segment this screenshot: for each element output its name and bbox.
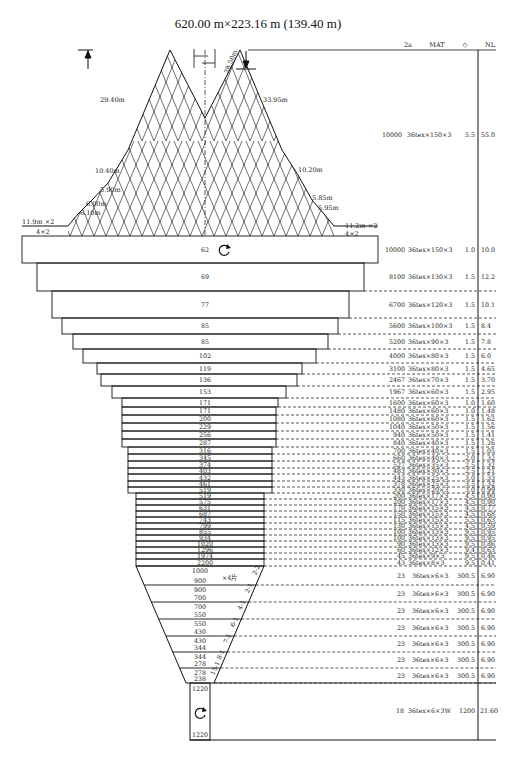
section-diamond: 1.5 bbox=[465, 431, 475, 438]
section-diamond: 1.5 bbox=[465, 365, 475, 372]
extension-nl: 6.90 bbox=[481, 672, 495, 679]
section-2a: 700 bbox=[393, 447, 405, 454]
extension-diamond: 300.5 bbox=[457, 572, 475, 579]
section-2a: 1600 bbox=[389, 399, 405, 406]
wing-label-left: 4×2 bbox=[36, 228, 50, 236]
body-section: 171148036tex×60×31.01.48 bbox=[122, 407, 496, 415]
body-section: 200108036tex×60×31.51.62 bbox=[122, 415, 496, 423]
extension-mat: 36tex×6×3 bbox=[412, 607, 448, 614]
section-mesh-count: 345 bbox=[199, 454, 211, 461]
extension-mat: 36tex×6×3 bbox=[412, 640, 448, 647]
section-2a: 10000 bbox=[385, 246, 405, 253]
section-2a: 660 bbox=[393, 454, 405, 461]
rotate-icon bbox=[195, 707, 207, 718]
section-mesh-count: 62 bbox=[201, 246, 209, 253]
section-diamond: 1.5 bbox=[465, 352, 475, 359]
section-nl: 1.62 bbox=[481, 415, 495, 422]
body-section: 621000036tex×150×31.010.0 bbox=[22, 236, 495, 263]
header-2a: 2a bbox=[404, 41, 412, 49]
section-diamond: 1.5 bbox=[465, 439, 475, 446]
section-mesh-count: 256 bbox=[199, 431, 211, 438]
extension-bottom-mesh: 238 bbox=[194, 675, 206, 682]
section-mat: 36tex×8×3 bbox=[408, 559, 444, 566]
section-mat: 36tex×60×3 bbox=[408, 399, 448, 406]
section-2a: 43 bbox=[397, 559, 405, 566]
section-2a: 5200 bbox=[389, 338, 405, 345]
wing-mat: 36tex×150×3 bbox=[407, 131, 451, 138]
section-2a: 1040 bbox=[389, 423, 405, 430]
extension-nl: 6.90 bbox=[481, 624, 495, 631]
section-diamond: 1.0 bbox=[465, 399, 475, 406]
section-mesh-count: 171 bbox=[199, 407, 211, 414]
section-2a: 840 bbox=[393, 439, 405, 446]
body-section: 229104036tex×50×31.51.56 bbox=[122, 423, 496, 431]
extension-diamond: 300.5 bbox=[457, 640, 475, 647]
section-2a: 1480 bbox=[389, 407, 405, 414]
section-nl: 1.26 bbox=[481, 439, 495, 446]
section-nl: 12.2 bbox=[481, 273, 495, 280]
section-mesh-count: 77 bbox=[201, 301, 209, 308]
body-section: 22004336tex×8×39.50.41 bbox=[136, 559, 496, 566]
extension-top-mesh: 344 bbox=[194, 653, 206, 660]
section-mat: 36tex×150×3 bbox=[408, 246, 452, 253]
section-diamond: 2.0 bbox=[465, 454, 475, 461]
body-section: 85520036tex×90×31.57.8 bbox=[73, 334, 496, 349]
section-mat: 36tex×50×3 bbox=[408, 423, 448, 430]
extension-bottom-mesh: 900 bbox=[194, 577, 206, 584]
wing-label-center: 28.50m bbox=[222, 49, 239, 75]
section-nl: 0.41 bbox=[481, 559, 495, 566]
section-diamond: 1.5 bbox=[465, 376, 475, 383]
wing-label-left: 6.00m bbox=[86, 200, 107, 208]
extension-top-mesh: 1000 bbox=[192, 567, 208, 574]
section-nl: 1.60 bbox=[481, 399, 495, 406]
section-mat: 36tex×90×3 bbox=[408, 338, 448, 345]
extension-diamond: 300.5 bbox=[457, 656, 475, 663]
extension-nl: 6.90 bbox=[481, 607, 495, 614]
body-section: 153196736tex×60×31.52.95 bbox=[112, 386, 496, 398]
section-mesh-count: 229 bbox=[199, 423, 211, 430]
section-2a: 1967 bbox=[389, 388, 405, 395]
extension-section: 10009002336tex×6×3300.56.902-29007002336… bbox=[136, 564, 496, 683]
wing-label-left: 11.9m ×2 bbox=[22, 218, 54, 226]
extension-bottom-mesh: 344 bbox=[194, 644, 206, 651]
body-section: 77670036tex×120×31.510.1 bbox=[52, 291, 496, 318]
codend-mat: 36tex×6×3W bbox=[408, 707, 451, 714]
section-nl: 7.8 bbox=[481, 338, 491, 345]
trawl-net-diagram: 621000036tex×150×31.010.069810036tex×130… bbox=[0, 0, 516, 758]
extension-nl: 6.90 bbox=[481, 640, 495, 647]
section-mesh-count: 287 bbox=[199, 439, 211, 446]
section-2a: 3100 bbox=[389, 365, 405, 372]
extension-nl: 6.90 bbox=[481, 656, 495, 663]
section-mesh-count: 2200 bbox=[197, 559, 213, 566]
section-nl: 6.0 bbox=[481, 352, 491, 359]
extension-2a: 23 bbox=[397, 572, 405, 579]
section-2a: 8100 bbox=[389, 273, 405, 280]
extension-top-mesh: 900 bbox=[194, 586, 206, 593]
section-2a: 5600 bbox=[389, 322, 405, 329]
section-2a: 1080 bbox=[389, 415, 405, 422]
codend-2a: 18 bbox=[396, 707, 404, 714]
extension-mat: 36tex×6×3 bbox=[412, 572, 448, 579]
section-mat: 36tex×100×3 bbox=[408, 322, 452, 329]
section-mat: 36tex×40×3 bbox=[408, 447, 448, 454]
section-mesh-count: 102 bbox=[199, 352, 211, 359]
section-diamond: 1.5 bbox=[465, 415, 475, 422]
section-mesh-count: 85 bbox=[201, 338, 209, 345]
codend-top-mesh: 1220 bbox=[192, 685, 208, 692]
section-mat: 36tex×80×3 bbox=[408, 365, 448, 372]
section-nl: 1.56 bbox=[481, 423, 495, 430]
extension-top-mesh: 430 bbox=[194, 637, 206, 644]
section-mesh-count: 119 bbox=[199, 365, 211, 372]
section-nl: 1.32 bbox=[481, 454, 495, 461]
section-mat: 36tex×40×3 bbox=[408, 454, 448, 461]
section-nl: 2.95 bbox=[481, 388, 495, 395]
section-2a: 4000 bbox=[389, 352, 405, 359]
section-nl: 4.65 bbox=[481, 365, 495, 372]
wing-label-right: 10.20m bbox=[298, 166, 323, 174]
codend-section: 122012201836tex×6×3W120021.60 bbox=[190, 683, 498, 740]
extension-nl: 6.90 bbox=[481, 572, 495, 579]
taper-ratio: 6-1 bbox=[229, 616, 240, 628]
section-mesh-count: 69 bbox=[201, 273, 209, 280]
extension-nl: 6.90 bbox=[481, 590, 495, 597]
codend-nl: 21.60 bbox=[480, 707, 498, 714]
